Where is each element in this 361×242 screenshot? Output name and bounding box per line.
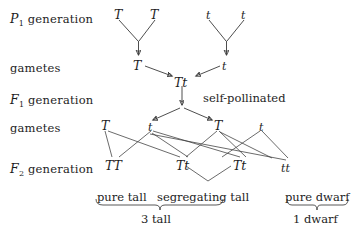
caption-1-dwarf: 1 dwarf [293,212,338,226]
f2-gamete-4: t [259,122,263,133]
genetics-cross-diagram: P1 generation gametes F1 generation game… [0,0,361,242]
f2-genotype-tt-homozygous-recessive: tt [281,163,290,174]
row-label-gametes-1: gametes [10,61,61,75]
caption-pure-tall: pure tall [97,190,147,204]
gametes-1-text: gametes [10,61,61,75]
p1-letter: P [10,11,19,26]
heterozygote-pair-connector [186,166,231,181]
f1-subscript: 1 [19,100,24,109]
f2-genotype-tt-homozygous-dominant: TT [105,160,122,173]
p1-left-convergence-lines [119,20,155,55]
p1-parent-right-allele: t [206,10,210,21]
f2-label-text: generation [28,162,93,176]
f1-gamete-split-lines [153,108,212,120]
gamete-p1-left: T [133,60,141,73]
p1-subscript: 1 [19,19,24,28]
row-label-f1-generation: F1 generation [10,92,93,109]
caption-segregating-tall: segregating tall [157,190,249,204]
gamete-p1-right: t [222,61,226,72]
p1-right-convergence-lines [209,20,244,55]
f2-genotype-tt-heterozygous-2: Tt [233,160,246,173]
caption-pure-dwarf: pure dwarf [285,190,350,204]
row-label-p1-generation: P1 generation [10,11,93,28]
row-label-f2-generation: F2 generation [10,161,93,178]
f2-genotype-tt-heterozygous-1: Tt [176,160,189,173]
p1-parent-left-allele: T [114,9,122,22]
f1-label-text: generation [28,93,93,107]
p1-parent-left-allele-2: T [150,9,158,22]
row-label-gametes-2: gametes [10,121,61,135]
f2-gamete-2: t [148,122,152,133]
caption-3-tall: 3 tall [141,212,171,226]
f2-gamete-1: T [101,120,109,133]
f2-letter: F [10,161,19,176]
self-pollinated-note: self-pollinated [203,91,286,105]
gametes-2-text: gametes [10,121,61,135]
f2-subscript: 2 [19,169,24,178]
f2-punnett-cross-lines [105,131,288,160]
f2-gamete-3: T [214,120,222,133]
f1-genotype: Tt [174,77,187,90]
p1-label-text: generation [28,12,93,26]
f1-letter: F [10,92,19,107]
p1-parent-right-allele-2: t [241,10,245,21]
